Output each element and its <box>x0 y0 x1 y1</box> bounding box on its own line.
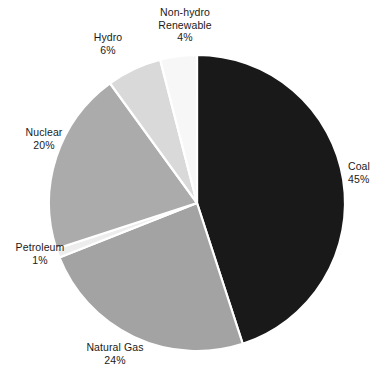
slice-label-hydro: Hydro 6% <box>78 31 138 56</box>
slice-label-value-coal: 45% <box>348 173 384 186</box>
slice-label-non-hydro-renewable: Non-hydro Renewable 4% <box>140 6 230 44</box>
slice-label-value-petroleum: 1% <box>2 254 78 267</box>
slice-label-natural-gas: Natural Gas 24% <box>66 341 164 366</box>
slice-label-value-hydro: 6% <box>78 44 138 57</box>
slice-label-name-non-hydro-renewable-line2: Renewable <box>140 19 230 32</box>
pie-slices-group <box>49 55 345 351</box>
pie-chart: Non-hydro Renewable 4% Hydro 6% Nuclear … <box>0 0 387 385</box>
slice-label-name-coal: Coal <box>348 160 384 173</box>
pie-chart-canvas <box>0 0 387 385</box>
slice-label-name-natural-gas: Natural Gas <box>66 341 164 354</box>
slice-label-name-non-hydro-renewable-line1: Non-hydro <box>140 6 230 19</box>
slice-label-nuclear: Nuclear 20% <box>9 126 79 151</box>
slice-label-value-natural-gas: 24% <box>66 354 164 367</box>
slice-label-name-petroleum: Petroleum <box>2 241 78 254</box>
slice-label-name-nuclear: Nuclear <box>9 126 79 139</box>
slice-label-petroleum: Petroleum 1% <box>2 241 78 266</box>
slice-label-value-non-hydro-renewable: 4% <box>140 31 230 44</box>
slice-label-coal: Coal 45% <box>348 160 384 185</box>
slice-label-value-nuclear: 20% <box>9 139 79 152</box>
slice-label-name-hydro: Hydro <box>78 31 138 44</box>
